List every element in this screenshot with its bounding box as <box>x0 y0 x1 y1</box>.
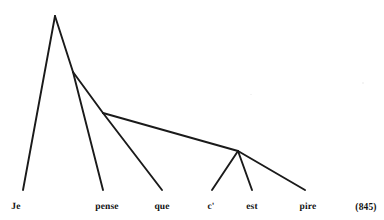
tree-leaf-label: pense <box>95 203 118 213</box>
tree-leaf-label: que <box>154 203 169 213</box>
tree-leaf-label: Je <box>11 203 20 213</box>
tree-edge-group <box>23 16 305 190</box>
tree-leaf-label: est <box>246 203 258 213</box>
tree-edge <box>103 113 162 190</box>
example-number-label: (845) <box>355 203 376 213</box>
tree-leaf-label: pire <box>300 203 317 213</box>
tree-edge <box>73 72 103 190</box>
tree-edge <box>103 113 238 151</box>
tree-edge <box>238 151 305 190</box>
syntax-tree-graphic <box>0 0 384 220</box>
tree-edge <box>55 16 73 72</box>
tree-edge <box>23 16 55 190</box>
figure-container: Jepensequec'estpire (845) <box>0 0 384 220</box>
tree-leaf-label: c' <box>207 203 214 213</box>
tree-edge <box>212 151 238 190</box>
